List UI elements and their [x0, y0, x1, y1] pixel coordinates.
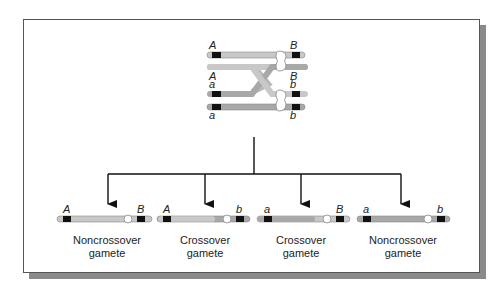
caption-line: gamete: [353, 247, 453, 260]
allele-label: B: [137, 203, 144, 215]
allele-marker: [264, 216, 272, 222]
gamete-2: A b: [157, 203, 250, 223]
allele-marker: [336, 216, 344, 222]
caption-line: Noncrossover: [57, 234, 157, 247]
allele-label: b: [290, 109, 296, 121]
caption-line: Crossover: [251, 234, 351, 247]
centromere-icon: [323, 215, 331, 223]
gamete-caption: Crossover gamete: [155, 234, 255, 260]
gamete-caption: Noncrossover gamete: [57, 234, 157, 260]
allele-marker: [363, 216, 371, 222]
gamete-1: A B: [57, 203, 152, 223]
gamete-caption: Noncrossover gamete: [353, 234, 453, 260]
chromatid-1: A B: [207, 39, 305, 58]
allele-marker: [137, 216, 145, 222]
gamete-4: a b: [357, 203, 450, 223]
branch-arrows: [108, 137, 401, 204]
allele-label: A: [162, 203, 170, 215]
centromere-icon: [276, 51, 286, 111]
centromere-icon: [424, 215, 432, 223]
allele-label: A: [208, 39, 216, 51]
allele-label: B: [336, 203, 343, 215]
allele-marker: [63, 216, 71, 222]
allele-label: A: [62, 203, 70, 215]
allele-marker: [212, 52, 221, 58]
allele-marker: [212, 91, 221, 97]
centromere-icon: [124, 215, 132, 223]
allele-marker: [163, 216, 171, 222]
allele-label: a: [209, 109, 215, 121]
allele-label: a: [363, 203, 369, 215]
caption-line: Crossover: [155, 234, 255, 247]
allele-label: b: [437, 203, 443, 215]
allele-label: a: [209, 78, 215, 90]
allele-label: B: [290, 39, 297, 51]
gamete-caption: Crossover gamete: [251, 234, 351, 260]
allele-marker: [437, 216, 445, 222]
gamete-3: a B: [257, 203, 350, 223]
caption-line: gamete: [155, 247, 255, 260]
caption-line: Noncrossover: [353, 234, 453, 247]
allele-label: b: [290, 78, 296, 90]
centromere-icon: [223, 215, 231, 223]
caption-line: gamete: [57, 247, 157, 260]
allele-label: a: [264, 203, 270, 215]
allele-label: b: [236, 203, 242, 215]
allele-marker: [292, 52, 300, 58]
caption-line: gamete: [251, 247, 351, 260]
chromatid-4: a b: [207, 104, 305, 121]
allele-marker: [292, 91, 300, 97]
allele-marker: [236, 216, 244, 222]
tetrad: A B A B a b a b: [207, 39, 305, 121]
